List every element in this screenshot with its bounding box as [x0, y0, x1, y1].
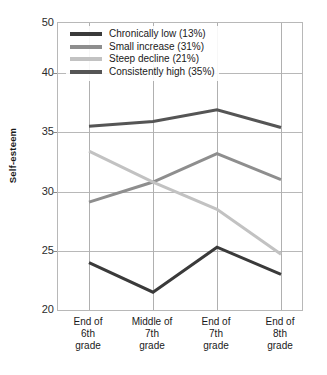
legend-label: Chronically low (13%)	[109, 29, 206, 39]
y-tick-label-20: 20	[28, 304, 54, 315]
x-tick-label-line: 6th	[53, 328, 123, 340]
x-tick-label-2: End of7thgrade	[181, 316, 251, 352]
y-tick-label-25: 25	[28, 245, 54, 256]
chart-legend: Chronically low (13%)Small increase (31%…	[66, 26, 219, 81]
legend-label: Consistently high (35%)	[109, 67, 215, 77]
x-tick-label-line: End of	[53, 316, 123, 328]
legend-label: Steep decline (21%)	[109, 54, 199, 64]
legend-item[interactable]: Consistently high (35%)	[70, 66, 215, 79]
legend-swatch-icon	[70, 57, 102, 61]
x-axis-labels: End of6thgradeMiddle of7thgradeEnd of7th…	[57, 316, 303, 372]
line-chart: Self-esteem 202530354050 Chronically low…	[0, 0, 327, 375]
series-line-3	[89, 110, 281, 128]
x-tick-label-1: Middle of7thgrade	[117, 316, 187, 352]
x-tick-label-line: grade	[53, 340, 123, 352]
legend-swatch-icon	[70, 70, 102, 74]
legend-item[interactable]: Steep decline (21%)	[70, 53, 215, 66]
legend-label: Small increase (31%)	[109, 42, 204, 52]
y-tick-label-30: 30	[28, 186, 54, 197]
x-tick-label-line: grade	[117, 340, 187, 352]
y-tick-label-50: 50	[28, 17, 54, 28]
x-tick-label-0: End of6thgrade	[53, 316, 123, 352]
x-tick-label-line: grade	[245, 340, 315, 352]
x-tick-label-line: Middle of	[117, 316, 187, 328]
legend-item[interactable]: Chronically low (13%)	[70, 28, 215, 41]
x-tick-label-line: End of	[181, 316, 251, 328]
y-tick-label-35: 35	[28, 126, 54, 137]
legend-swatch-icon	[70, 32, 102, 36]
x-tick-label-line: 7th	[181, 328, 251, 340]
x-tick-label-line: 8th	[245, 328, 315, 340]
y-tick-label-40: 40	[28, 67, 54, 78]
x-tick-label-3: End of8thgrade	[245, 316, 315, 352]
x-tick-label-line: 7th	[117, 328, 187, 340]
y-axis-title: Self-esteem	[7, 116, 18, 196]
x-tick-label-line: End of	[245, 316, 315, 328]
y-axis-ticks: 202530354050	[24, 0, 54, 375]
legend-item[interactable]: Small increase (31%)	[70, 41, 215, 54]
x-tick-label-line: grade	[181, 340, 251, 352]
series-line-0	[89, 247, 281, 292]
legend-swatch-icon	[70, 45, 102, 49]
